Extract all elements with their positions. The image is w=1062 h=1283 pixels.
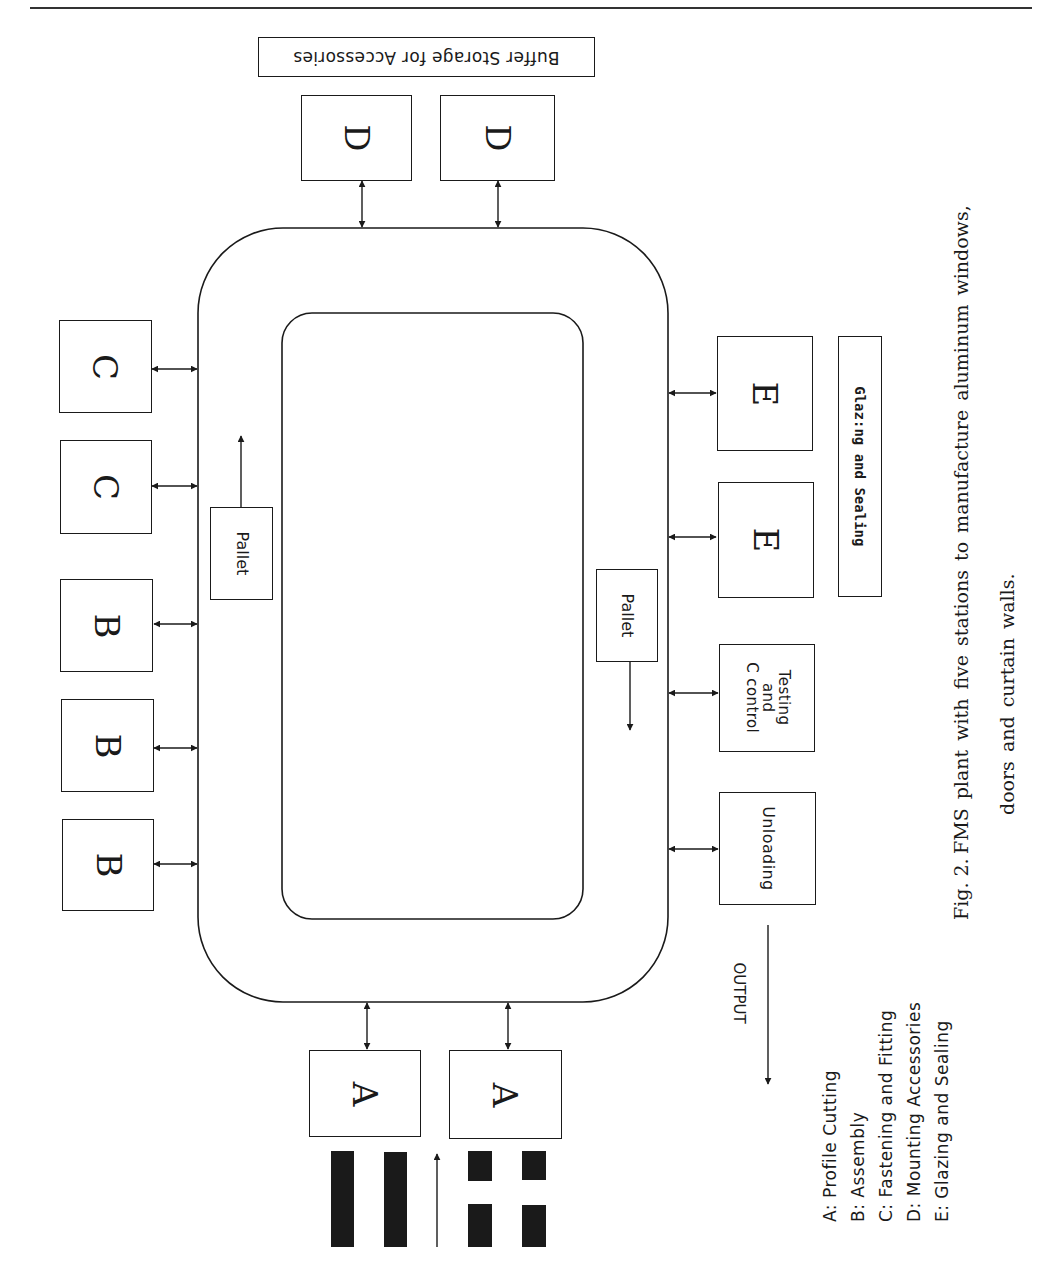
unloading-station: Unloading [719, 792, 816, 905]
raw-material-block [522, 1151, 546, 1180]
station-a-2: A [449, 1050, 562, 1139]
output-label-wrap: OUTPUT [726, 955, 752, 1031]
station-b-3: B [62, 819, 154, 911]
legend-item-c: C: Fastening and Fitting [872, 1002, 900, 1222]
station-d-2-label: D [477, 124, 517, 151]
station-d-1-label: D [336, 124, 376, 151]
buffer-storage-box: Buffer Storage for Accessories [258, 37, 595, 77]
legend-item-e: E: Glazing and Sealing [928, 1002, 956, 1222]
pallet-left-label: Pallet [233, 532, 250, 576]
testing-line-2: and [759, 663, 775, 734]
station-c-1: C [59, 320, 152, 413]
raw-material-bar [384, 1152, 407, 1247]
legend-item-d: D: Mounting Accessories [900, 1002, 928, 1222]
station-b-2-label: B [88, 733, 128, 758]
raw-material-block [468, 1204, 492, 1247]
raw-material-block [468, 1151, 492, 1181]
station-b-1-label: B [87, 613, 127, 638]
station-a-2-label: A [486, 1082, 526, 1107]
station-a-1-label: A [345, 1081, 385, 1106]
pallet-right: Pallet [596, 569, 658, 662]
testing-qc-label: TestingandC control [743, 663, 790, 734]
testing-qc-station: TestingandC control [719, 644, 815, 752]
station-b-2: B [61, 699, 154, 792]
station-c-1-label: C [85, 353, 125, 379]
glazing-sealing-box: Glaz:ng and Sealing [838, 336, 882, 597]
legend-item-a: A: Profile Cutting [816, 1002, 844, 1222]
station-b-3-label: B [88, 853, 128, 878]
caption-line-2: doors and curtain walls. [996, 574, 1018, 816]
legend-item-b: B: Assembly [844, 1002, 872, 1222]
station-e-1: E [717, 336, 813, 451]
buffer-storage-label: Buffer Storage for Accessories [293, 48, 560, 66]
pallet-right-label: Pallet [619, 594, 636, 638]
station-a-1: A [309, 1050, 421, 1137]
station-e-1-label: E [745, 381, 785, 406]
conveyor-track-inner [282, 313, 583, 919]
caption-label: Fig. 2. [938, 854, 984, 920]
station-d-1: D [301, 95, 412, 181]
station-e-2-label: E [746, 528, 786, 553]
raw-material-block [522, 1205, 546, 1247]
glazing-sealing-label: Glaz:ng and Sealing [853, 386, 868, 546]
station-e-2: E [718, 482, 814, 598]
unloading-label: Unloading [759, 806, 776, 890]
station-d-2: D [440, 95, 555, 181]
caption-line-1: FMS plant with five stations to manufact… [938, 205, 984, 854]
station-c-2: C [60, 440, 152, 534]
station-b-1: B [60, 579, 153, 672]
raw-material-bar [331, 1151, 354, 1247]
station-c-2-label: C [86, 474, 126, 500]
testing-line-1: Testing [775, 663, 791, 734]
pallet-left: Pallet [210, 507, 273, 600]
testing-line-3: C control [743, 663, 759, 734]
output-label: OUTPUT [730, 962, 748, 1023]
